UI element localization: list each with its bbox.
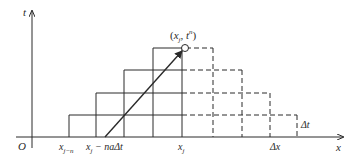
x-j-minus-n-sub: j−n xyxy=(63,147,73,155)
diagram-svg xyxy=(0,0,354,164)
x-j-minus-nadt-label: xj − naΔt xyxy=(86,142,123,155)
solid-grid xyxy=(69,48,182,137)
origin-label: O xyxy=(18,141,26,152)
x-j-label: xj xyxy=(178,142,184,155)
target-point-circle xyxy=(182,45,189,52)
characteristic-arrow xyxy=(105,51,182,137)
x-j-minus-n-label: xj−n xyxy=(59,142,74,155)
dashed-grid xyxy=(182,48,297,137)
target-point-label: (xj, tn) xyxy=(170,29,196,44)
delta-t-label: Δt xyxy=(301,120,310,130)
paren-close: ) xyxy=(193,29,197,41)
x-j-minus-nadt-rest: − naΔt xyxy=(92,141,122,152)
x-axis-label: x xyxy=(336,142,341,153)
t-axis-label: t xyxy=(23,7,26,18)
delta-x-label: Δx xyxy=(270,142,280,152)
x-j-sub: j xyxy=(182,147,184,155)
diagram-canvas: t x O (xj, tn) xj−n xj − naΔt xj Δx Δt xyxy=(0,0,354,164)
